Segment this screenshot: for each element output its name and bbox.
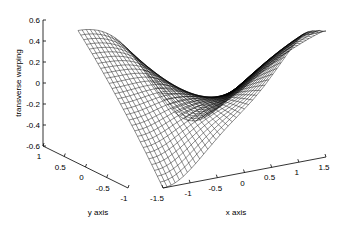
x-tick-label: -1.5	[150, 194, 164, 203]
z-tick-label: 0.6	[29, 16, 41, 25]
y-tick-label: -1	[120, 194, 128, 203]
z-axis-label: transverse warping	[14, 49, 23, 117]
z-tick-label: -0.6	[26, 142, 40, 151]
z-tick-label: 0.2	[29, 58, 41, 67]
z-tick-label: 0.4	[29, 37, 41, 46]
y-tick-label: 0.5	[55, 163, 67, 172]
surface-plot: 0.60.40.20-0.2-0.4-0.610.50-0.5-1-1.5-1-…	[0, 0, 354, 229]
y-tick-label: -0.5	[96, 184, 110, 193]
z-tick-label: -0.2	[26, 100, 40, 109]
x-tick-label: -0.5	[208, 184, 222, 193]
y-axis-label: y axis	[88, 208, 108, 217]
tick-labels: 0.60.40.20-0.2-0.4-0.610.50-0.5-1-1.5-1-…	[26, 16, 330, 203]
x-axis-label: x axis	[226, 208, 246, 217]
y-tick-label: 0	[79, 173, 84, 182]
z-tick-label: -0.4	[26, 121, 40, 130]
x-tick-label: 1	[295, 168, 300, 177]
x-tick-label: -1	[185, 189, 193, 198]
x-tick-label: 0	[240, 179, 245, 188]
z-tick-label: 0	[36, 79, 41, 88]
y-tick-label: 1	[37, 152, 42, 161]
axes	[43, 20, 326, 188]
x-tick-label: 0.5	[264, 173, 276, 182]
x-tick-label: 1.5	[318, 163, 330, 172]
